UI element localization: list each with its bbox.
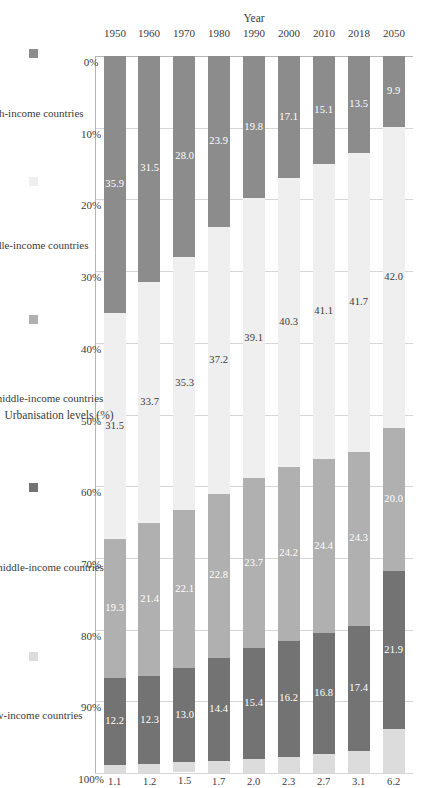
bar-value-label: 1.1 [108, 777, 121, 788]
y-tick-label: 1990 [243, 0, 265, 50]
bar-value-label: 12.3 [140, 715, 159, 726]
bar-value-label: 35.3 [175, 378, 194, 389]
bar-segment[interactable]: 1.1 [104, 765, 126, 773]
legend-item[interactable]: Middle-income countries [28, 177, 40, 301]
legend-swatch-icon [29, 49, 38, 58]
bar-row[interactable]: 23.937.222.814.41.7 [208, 56, 230, 773]
bar-segment[interactable]: 17.1 [278, 56, 300, 178]
legend-row: High-income countriesMiddle-income count… [24, 40, 43, 773]
bar-segment[interactable]: 12.3 [138, 676, 160, 764]
bar-value-label: 24.4 [314, 541, 333, 552]
bar-segment[interactable]: 24.2 [278, 467, 300, 640]
bar-row[interactable]: 19.839.123.715.42.0 [243, 56, 265, 773]
bar-segment[interactable]: 40.3 [278, 178, 300, 467]
legend-label: High-income countries [0, 107, 84, 119]
bar-segment[interactable]: 1.5 [173, 762, 195, 773]
legend-item[interactable]: Lower-middle-income countries [28, 483, 40, 638]
bar-segment[interactable]: 15.1 [313, 56, 335, 164]
bar-segment[interactable]: 21.4 [138, 523, 160, 676]
y-tick-label-text: 1960 [138, 27, 160, 39]
bar-segment[interactable]: 22.1 [173, 510, 195, 668]
bar-value-label: 2.0 [247, 777, 260, 788]
bar-segment[interactable]: 28.0 [173, 56, 195, 257]
bar-value-label: 15.1 [314, 105, 333, 116]
bar-segment[interactable]: 21.9 [383, 571, 405, 728]
y-tick-label: 2050 [383, 0, 405, 50]
bar-value-label: 17.1 [280, 112, 299, 123]
bar-segment[interactable]: 14.4 [208, 658, 230, 761]
bar-segment[interactable]: 41.1 [313, 164, 335, 458]
bar-series-container: 9.942.020.021.96.213.541.724.317.43.115.… [95, 56, 413, 773]
plot-area: 9.942.020.021.96.213.541.724.317.43.115.… [95, 56, 413, 773]
bar-segment[interactable]: 16.8 [313, 633, 335, 753]
y-tick-label: 1970 [173, 0, 195, 50]
x-tick-label: 60% [81, 486, 101, 498]
bar-segment[interactable]: 24.4 [313, 459, 335, 634]
legend-item[interactable]: Low-income countries [28, 652, 40, 764]
bar-segment[interactable]: 23.9 [208, 56, 230, 227]
bar-row[interactable]: 28.035.322.113.01.5 [173, 56, 195, 773]
legend-swatch-icon [29, 177, 38, 186]
bar-value-label: 2.3 [282, 777, 295, 788]
bar-segment[interactable]: 31.5 [138, 56, 160, 282]
x-tick-label: 30% [81, 271, 101, 283]
bar-segment[interactable]: 1.2 [138, 764, 160, 773]
bar-value-label: 1.5 [178, 777, 191, 788]
bar-segment[interactable]: 15.4 [243, 648, 265, 758]
bar-value-label: 35.9 [105, 179, 124, 190]
bar-segment[interactable]: 23.7 [243, 478, 265, 648]
bar-segment[interactable]: 19.3 [104, 539, 126, 677]
bar-segment[interactable]: 19.8 [243, 56, 265, 198]
bar-value-label: 13.0 [175, 710, 194, 721]
bar-row[interactable]: 9.942.020.021.96.2 [383, 56, 405, 773]
legend-item[interactable]: Upper-middle-income countries [28, 315, 40, 469]
bar-value-label: 20.0 [384, 495, 403, 506]
bar-segment[interactable]: 9.9 [383, 56, 405, 127]
bar-segment[interactable]: 17.4 [348, 626, 370, 751]
plot-canvas: 9.942.020.021.96.213.541.724.317.43.115.… [95, 56, 413, 773]
legend-label: Lower-middle-income countries [0, 561, 104, 573]
bar-segment[interactable]: 2.0 [243, 759, 265, 773]
bar-segment[interactable]: 1.7 [208, 761, 230, 773]
bar-segment[interactable]: 22.8 [208, 494, 230, 657]
bar-value-label: 6.2 [387, 777, 400, 788]
bar-value-label: 39.1 [245, 333, 264, 344]
bar-segment[interactable]: 12.2 [104, 678, 126, 765]
bar-segment[interactable]: 2.3 [278, 757, 300, 773]
bar-value-label: 16.8 [314, 688, 333, 699]
bar-segment[interactable]: 6.2 [383, 729, 405, 773]
bar-segment[interactable]: 2.7 [313, 754, 335, 773]
bar-row[interactable]: 13.541.724.317.43.1 [348, 56, 370, 773]
bar-segment[interactable]: 16.2 [278, 641, 300, 757]
y-tick-label: 1950 [104, 0, 126, 50]
bar-segment[interactable]: 42.0 [383, 127, 405, 428]
bar-row[interactable]: 15.141.124.416.82.7 [313, 56, 335, 773]
bar-segment[interactable]: 35.9 [104, 56, 126, 313]
bar-value-label: 22.8 [210, 571, 229, 582]
bar-value-label: 14.4 [210, 704, 229, 715]
bar-row[interactable]: 17.140.324.216.22.3 [278, 56, 300, 773]
legend-swatch-icon [29, 652, 38, 661]
bar-segment[interactable]: 13.5 [348, 56, 370, 153]
bar-segment[interactable]: 39.1 [243, 198, 265, 478]
y-tick-label: 2018 [348, 0, 370, 50]
bar-value-label: 33.7 [140, 397, 159, 408]
bar-segment[interactable]: 24.3 [348, 452, 370, 626]
bar-row[interactable]: 31.533.721.412.31.2 [138, 56, 160, 773]
bar-segment[interactable]: 13.0 [173, 668, 195, 761]
bar-segment[interactable]: 3.1 [348, 751, 370, 773]
bar-segment[interactable]: 41.7 [348, 153, 370, 452]
y-tick-label-text: 2018 [348, 27, 370, 39]
bar-segment[interactable]: 37.2 [208, 227, 230, 494]
bar-value-label: 41.1 [314, 306, 333, 317]
y-tick-label-text: 2000 [278, 27, 300, 39]
bar-segment[interactable]: 20.0 [383, 428, 405, 571]
legend-item[interactable]: High-income countries [28, 49, 40, 163]
bar-value-label: 21.9 [384, 645, 403, 656]
bar-segment[interactable]: 35.3 [173, 257, 195, 510]
bar-segment[interactable]: 31.5 [104, 313, 126, 539]
bar-value-label: 28.0 [175, 151, 194, 162]
bar-segment[interactable]: 33.7 [138, 282, 160, 523]
